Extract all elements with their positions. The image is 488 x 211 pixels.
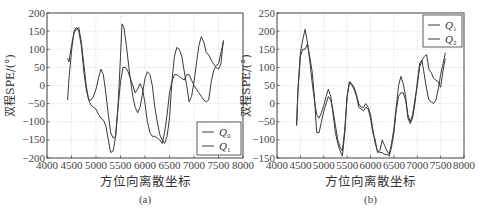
series-line-q2 xyxy=(297,44,446,156)
y-tick-label: −100 xyxy=(252,133,275,145)
x-tick-label: 5000 xyxy=(313,159,336,171)
y-tick-label: −50 xyxy=(28,97,46,109)
x-tick-label: 4500 xyxy=(289,159,312,171)
x-tick-label: 6000 xyxy=(134,159,157,171)
x-tick-label: 5500 xyxy=(336,159,359,171)
y-tick-label: −200 xyxy=(22,152,45,164)
x-tick-label: 8000 xyxy=(232,159,255,171)
y-tick-label: 100 xyxy=(29,43,46,55)
y-tick-label: −50 xyxy=(258,115,276,127)
x-tick-label: 4500 xyxy=(61,159,84,171)
chart-panel-b: 4000450050005500600065007000750080002502… xyxy=(240,7,476,207)
x-tick-label: 6500 xyxy=(159,159,182,171)
y-axis-label: 双程SPE/(°) xyxy=(240,54,253,117)
y-tick-label: 200 xyxy=(29,7,46,19)
x-tick-label: 6000 xyxy=(360,159,383,171)
y-tick-label: −150 xyxy=(252,152,275,164)
x-tick-label: 6500 xyxy=(383,159,406,171)
series-line-q1 xyxy=(297,29,446,156)
legend: Q0Q1 xyxy=(197,122,241,155)
y-tick-label: 100 xyxy=(259,61,276,73)
x-tick-label: 7000 xyxy=(183,159,206,171)
x-tick-label: 5500 xyxy=(110,159,133,171)
x-axis-label: 方位向离散坐标 xyxy=(100,174,191,189)
y-tick-label: 0 xyxy=(40,79,46,91)
y-tick-labels: 200150100500−50−100−150−200 xyxy=(22,7,49,164)
x-tick-label: 7500 xyxy=(430,159,453,171)
panel-caption: (a) xyxy=(139,193,152,206)
y-tick-label: 200 xyxy=(259,25,276,37)
x-tick-label: 8000 xyxy=(453,159,476,171)
y-tick-labels: 250200150100500−50−100−150 xyxy=(252,7,279,164)
y-tick-label: 50 xyxy=(34,61,46,73)
y-tick-label: 150 xyxy=(29,25,46,37)
x-axis-label: 方位向离散坐标 xyxy=(325,174,416,189)
x-tick-label: 7500 xyxy=(208,159,231,171)
y-tick-label: −100 xyxy=(22,115,45,127)
y-tick-label: 0 xyxy=(270,97,276,109)
x-tick-label: 7000 xyxy=(406,159,429,171)
y-tick-label: 250 xyxy=(259,7,276,19)
y-tick-label: 50 xyxy=(264,79,276,91)
y-tick-label: −150 xyxy=(22,133,45,145)
y-tick-label: 150 xyxy=(259,43,276,55)
x-tick-label: 5000 xyxy=(85,159,108,171)
y-axis-label: 双程SPE/(°) xyxy=(4,54,17,117)
panel-caption: (b) xyxy=(364,193,377,206)
figure: 4000450050005500600065007000750080002001… xyxy=(0,0,488,211)
chart-panel-a: 4000450050005500600065007000750080002001… xyxy=(4,7,255,207)
legend: Q1Q2 xyxy=(423,15,462,47)
